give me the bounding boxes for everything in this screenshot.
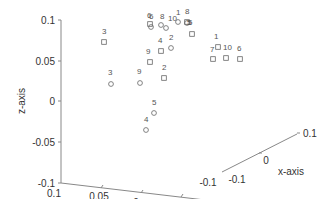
circle-marker: [159, 23, 164, 28]
point-label: 6: [147, 11, 152, 20]
y-tick-0: 0: [133, 197, 139, 199]
z-tick-0.1: 0.1: [41, 15, 55, 26]
point-label: 10: [223, 43, 232, 52]
point-label: 4: [144, 115, 149, 124]
y-axis: 0.1 0.05 0 -0.05 -0.1 y-axis: [47, 177, 222, 199]
square-marker: [162, 76, 167, 81]
point-label: 8: [185, 7, 190, 16]
point-label: 8: [160, 12, 165, 21]
square-marker: [148, 22, 153, 27]
y-tick-0.05: 0.05: [89, 191, 109, 199]
x-axis: -0.1 0 0.1 x-axis: [222, 128, 317, 185]
x-axis-label: x-axis: [278, 166, 304, 177]
square-marker: [190, 32, 195, 37]
square-marker: [211, 57, 216, 62]
z-axis: 0.1 0.05 0 -0.05 -0.1 z-axis: [16, 15, 61, 189]
point-label: 3: [102, 27, 107, 36]
square-marker: [216, 45, 221, 50]
circle-marker: [152, 111, 157, 116]
z-tick-0: 0: [49, 96, 55, 107]
scatter-3d-plot: 0.1 0.05 0 -0.05 -0.1 z-axis 0.1 0.05 0 …: [0, 0, 329, 199]
point-label: 1: [176, 8, 181, 17]
point-label: 3: [108, 68, 113, 77]
circle-marker: [109, 82, 114, 87]
point-label: 5: [187, 18, 192, 27]
x-tick-neg0.1: -0.1: [228, 174, 246, 185]
point-label: 1: [214, 32, 219, 41]
square-marker: [238, 57, 243, 62]
point-label: 7: [210, 45, 215, 54]
point-label: 9: [146, 47, 151, 56]
circle-marker: [138, 81, 143, 86]
circle-marker: [144, 128, 149, 133]
data-markers: 68101529354634928517106: [102, 7, 243, 132]
point-label: 2: [169, 33, 174, 42]
x-tick-0: 0: [263, 155, 269, 166]
point-label: 5: [152, 98, 157, 107]
square-marker: [148, 60, 153, 65]
point-label: 2: [162, 63, 167, 72]
square-marker: [102, 40, 107, 45]
y-tick-0.1: 0.1: [47, 188, 61, 199]
point-label: 9: [137, 67, 142, 76]
circle-marker: [169, 46, 174, 51]
point-label: 4: [158, 36, 163, 45]
square-marker: [224, 56, 229, 61]
square-marker: [159, 49, 164, 54]
circle-marker: [164, 26, 169, 31]
z-tick-neg0.05: -0.05: [32, 137, 55, 148]
x-tick-0.1: 0.1: [303, 128, 317, 139]
point-label: 6: [237, 44, 242, 53]
z-tick-0.05: 0.05: [36, 56, 56, 67]
y-tick-neg0.1: -0.1: [199, 177, 217, 188]
z-axis-label: z-axis: [16, 88, 27, 114]
